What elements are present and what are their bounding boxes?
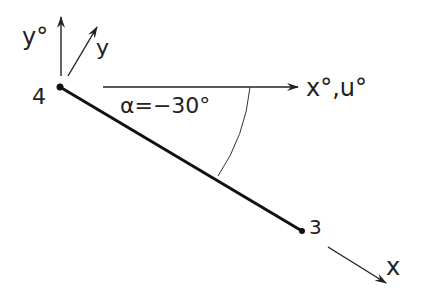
local-x-label: x bbox=[386, 253, 400, 281]
node-3-point bbox=[299, 228, 305, 234]
global-y-label: y° bbox=[22, 23, 48, 51]
node-4-label: 4 bbox=[32, 84, 46, 109]
global-x-label: x°,u° bbox=[306, 74, 367, 102]
local-y-label: y bbox=[96, 35, 109, 60]
angle-arc bbox=[218, 87, 250, 176]
angle-label: α=−30° bbox=[120, 93, 210, 118]
local-y-axis-arrow bbox=[68, 27, 97, 76]
node-3-label: 3 bbox=[309, 215, 322, 239]
node-4-point bbox=[57, 84, 64, 91]
diagram-canvas: y° y 4 x°,u° α=−30° 3 x bbox=[0, 0, 438, 304]
local-x-axis-arrow bbox=[328, 247, 386, 283]
